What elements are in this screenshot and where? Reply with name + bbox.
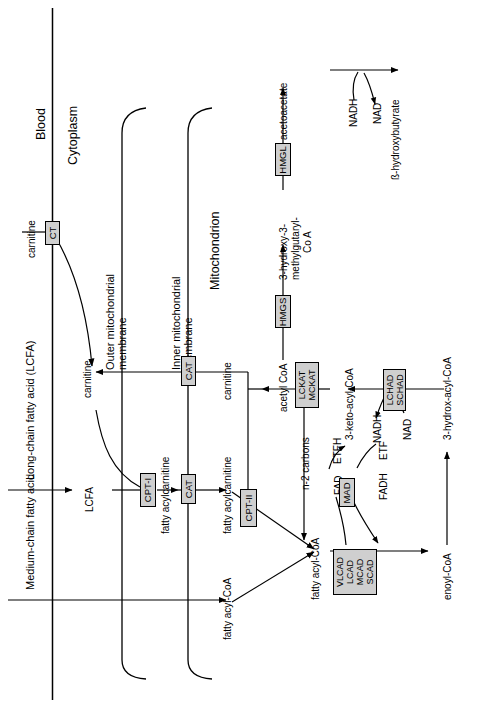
label-hmg-coa-line1: 3-hydroxy-3- [278, 224, 289, 280]
enzyme-line-lchad: LCHAD [385, 375, 395, 406]
enzyme-line-lckat: LCKAT [297, 371, 307, 399]
label-etfh: ETFH [332, 438, 343, 464]
outer-membrane-label-line2: membrane [117, 317, 128, 370]
ct-to-cytoplasm-carnitine [56, 238, 92, 366]
carnitine-into-cpt1 [96, 410, 140, 487]
label-3-keto-acyl-coa: 3-keto-acyl-CoA [344, 368, 355, 440]
outer-membrane-line [122, 108, 146, 648]
enzyme-line-vlcad: VLCAD [335, 557, 345, 587]
nad-out-curve-ketone [364, 73, 375, 104]
compartment-label-cytoplasm: Cytoplasm [68, 106, 79, 165]
etf-in-curve [357, 444, 376, 468]
enzyme-box-hmgl[interactable]: HMGL [275, 143, 291, 176]
enzyme-label-ct: CT [47, 227, 58, 240]
enzyme-box-cpt2[interactable]: CPT-II [240, 489, 257, 527]
enzyme-line-mckat: MCKAT [307, 370, 317, 401]
label-lcfa-blood: Long-chain fatty acid (LCFA) [25, 341, 36, 480]
enzyme-line-scad: SCAD [365, 559, 375, 584]
fadh-out-curve [352, 498, 378, 543]
label-lcfa-cyto: LCFA [84, 487, 95, 512]
enzyme-label-hmgs: HMGS [278, 297, 289, 326]
enzyme-line-mcad: MCAD [355, 559, 365, 586]
mcfa-acylcoa-to-acylcoa [232, 552, 314, 602]
enzyme-label-mad: MAD [342, 482, 353, 503]
enzyme-box-hydroxyacyl-dehydrogenases[interactable]: LCHAD SCHAD [383, 369, 406, 411]
enzyme-label-cat-export: CAT [183, 362, 194, 380]
label-enoyl-coa: enoyl-CoA [442, 553, 453, 600]
label-hmg-coa-line2: methylgutaryl- [290, 217, 301, 280]
label-fatty-acylcarnitine-cytoplasm: fatty acylcarnitine [160, 457, 171, 534]
label-beta-hydroxybutyrate: ß-hydroxybutyrate [390, 99, 401, 180]
enzyme-line-schad: SCHAD [395, 374, 405, 406]
label-carnitine-blood: carnitine [26, 220, 37, 258]
label-etf: ETF [378, 441, 389, 460]
enzyme-box-thiolases[interactable]: LCKAT MCKAT [295, 362, 319, 408]
label-acetoacetate: acetoacetate [278, 83, 289, 140]
enzyme-label-thiolases: LCKAT MCKAT [297, 370, 317, 401]
label-fatty-acyl-coa: fatty acyl-CoA [310, 538, 321, 600]
label-fatty-acylcarnitine-mito: fatty acylcarnitine [222, 457, 233, 534]
enzyme-box-cat-import[interactable]: CAT [181, 474, 196, 504]
inner-membrane-bottom [188, 648, 212, 679]
enzyme-label-acyl-dehydrogenases: VLCAD LCAD MCAD SCAD [335, 557, 375, 587]
enzyme-box-cpt1[interactable]: CPT-I [140, 473, 156, 507]
label-nad-keto: NAD [402, 419, 413, 440]
label-3-hydrox-acyl-coa: 3-hydrox-acyl-CoA [442, 357, 453, 440]
enzyme-label-cpt1: CPT-I [142, 478, 153, 502]
label-mcfa-blood: Medium-chain fatty acid [25, 474, 36, 590]
label-nad-ketone: NAD [372, 103, 383, 124]
label-nadh-keto: NADH [372, 415, 383, 443]
outer-membrane-label-line1: Outer mitochondrial [105, 274, 116, 370]
label-nadh-ketone: NADH [348, 99, 359, 127]
enzyme-box-acyl-dehydrogenases[interactable]: VLCAD LCAD MCAD SCAD [333, 549, 377, 595]
label-carnitine-cytoplasm: carnitine [82, 360, 93, 398]
enzyme-box-mad[interactable]: MAD [339, 478, 355, 507]
label-carnitine-mito: carnitine [222, 362, 233, 400]
label-n-minus-2-carbons: n-2 carbons [300, 437, 311, 490]
enzyme-box-cat-export[interactable]: CAT [181, 356, 196, 386]
enzyme-label-hydroxyacyl-dehydrogenases: LCHAD SCHAD [385, 374, 405, 406]
compartment-label-blood: Blood [36, 108, 47, 140]
outer-membrane-bottom [122, 648, 146, 679]
enzyme-label-cpt2: CPT-II [243, 495, 254, 522]
nadh-in-curve-ketone [353, 72, 358, 100]
pathway-diagram: Blood Cytoplasm Mitochondrion Outer mito… [0, 0, 478, 709]
label-fatty-acyl-coa-mcfa: fatty acyl-CoA [222, 578, 233, 640]
enzyme-label-cat-import: CAT [183, 480, 194, 498]
enzyme-line-lcad: LCAD [345, 560, 355, 584]
label-hmg-coa-line3: Co A [302, 231, 313, 253]
label-fadh: FADH [378, 473, 389, 500]
enzyme-box-hmgs[interactable]: HMGS [275, 295, 291, 328]
compartment-label-mitochondrion: Mitochondrion [210, 211, 221, 290]
enzyme-label-hmgl: HMGL [278, 146, 289, 173]
enzyme-box-ct[interactable]: CT [45, 221, 60, 245]
label-acetyl-coa: acetyl CoA [278, 364, 289, 412]
